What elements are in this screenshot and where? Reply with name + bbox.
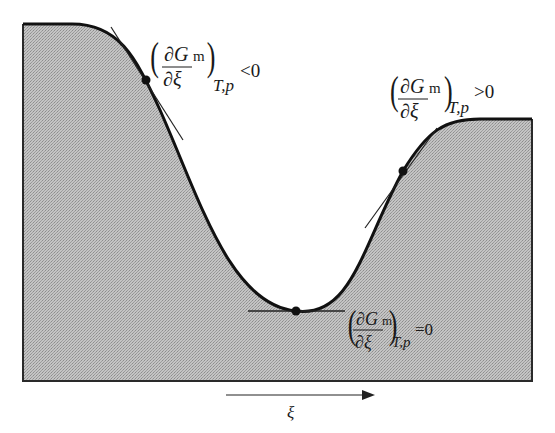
- svg-text:<0: <0: [240, 60, 260, 81]
- svg-text:T,p: T,p: [448, 98, 469, 117]
- svg-text:m: m: [193, 48, 205, 64]
- point-positive-slope: [399, 167, 408, 176]
- svg-text:∂ξ: ∂ξ: [163, 68, 182, 90]
- point-minimum: [292, 307, 301, 316]
- point-negative-slope: [142, 76, 151, 85]
- svg-text:∂G: ∂G: [400, 75, 425, 97]
- svg-text:(: (: [150, 34, 159, 79]
- svg-text:=0: =0: [415, 320, 433, 339]
- xi-axis-arrow: [226, 390, 375, 400]
- svg-text:m: m: [429, 80, 441, 96]
- svg-text:∂ξ: ∂ξ: [355, 332, 372, 352]
- svg-text:∂G: ∂G: [356, 309, 378, 329]
- svg-text:∂ξ: ∂ξ: [400, 100, 419, 122]
- svg-text:): ): [207, 34, 216, 79]
- xi-axis-label: ξ: [287, 403, 295, 422]
- svg-text:>0: >0: [474, 81, 494, 102]
- svg-text:(: (: [390, 68, 399, 113]
- annotation-negative-slope: ( ∂G m ∂ξ ) T,p <0: [150, 34, 260, 95]
- annotation-positive-slope: ( ∂G m ∂ξ ) T,p >0: [390, 68, 494, 122]
- svg-text:T,p: T,p: [392, 334, 411, 350]
- gibbs-energy-diagram: ( ∂G m ∂ξ ) T,p <0 ( ∂G m ∂ξ ) T,p >0 ( …: [0, 0, 555, 433]
- shaded-region: [23, 24, 532, 381]
- svg-text:∂G: ∂G: [164, 43, 189, 65]
- svg-text:T,p: T,p: [213, 76, 234, 95]
